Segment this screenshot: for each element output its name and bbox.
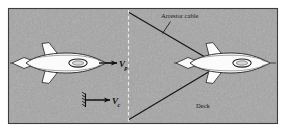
plane-velocity-subscript: p [124,65,128,71]
carrier-velocity-subscript: c [118,102,121,108]
carrier-arrestor-diagram: Arrestor cable Deck V p [0,0,285,132]
deck-label: Deck [196,102,211,109]
arrestor-cable-label: Arrestor cable [161,12,199,19]
figure-root: Arrestor cable Deck V p [0,0,285,132]
